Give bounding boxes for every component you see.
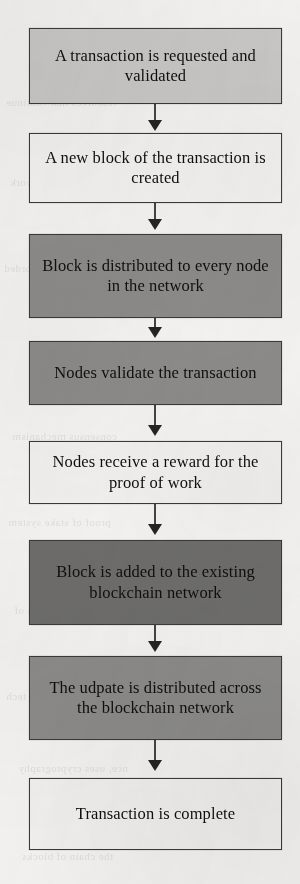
flow-arrowhead-icon: [148, 219, 162, 230]
flowchart-node-5: Nodes receive a reward for the proof of …: [29, 441, 282, 504]
flow-connector-line: [154, 504, 156, 525]
flowchart-node-label: Transaction is complete: [38, 804, 273, 824]
flow-connector-line: [154, 740, 156, 761]
flow-arrowhead-icon: [148, 120, 162, 131]
flowchart-node-3: Block is distributed to every node in th…: [29, 234, 282, 318]
flowchart-canvas: A transaction is requested and validated…: [0, 0, 300, 884]
flow-connector-line: [154, 203, 156, 220]
flow-arrowhead-icon: [148, 425, 162, 436]
flowchart-node-label: Nodes validate the transaction: [38, 363, 273, 383]
flowchart-node-1: A transaction is requested and validated: [29, 28, 282, 104]
flow-arrowhead-icon: [148, 641, 162, 652]
flowchart-node-7: The udpate is distributed across the blo…: [29, 656, 282, 740]
flowchart-node-2: A new block of the transaction is create…: [29, 133, 282, 203]
flowchart-node-label: Block is added to the existing blockchai…: [38, 562, 273, 602]
flowchart-node-8: Transaction is complete: [29, 778, 282, 850]
flowchart-node-label: Block is distributed to every node in th…: [38, 256, 273, 296]
flowchart-node-label: A new block of the transaction is create…: [38, 148, 273, 188]
flowchart-node-label: A transaction is requested and validated: [38, 46, 273, 86]
flowchart-node-label: The udpate is distributed across the blo…: [38, 678, 273, 718]
flow-arrowhead-icon: [148, 760, 162, 771]
flow-arrowhead-icon: [148, 327, 162, 338]
flowchart-node-4: Nodes validate the transaction: [29, 341, 282, 405]
flowchart-node-6: Block is added to the existing blockchai…: [29, 540, 282, 625]
flow-connector-line: [154, 405, 156, 426]
flowchart-node-label: Nodes receive a reward for the proof of …: [38, 452, 273, 492]
flow-arrowhead-icon: [148, 524, 162, 535]
